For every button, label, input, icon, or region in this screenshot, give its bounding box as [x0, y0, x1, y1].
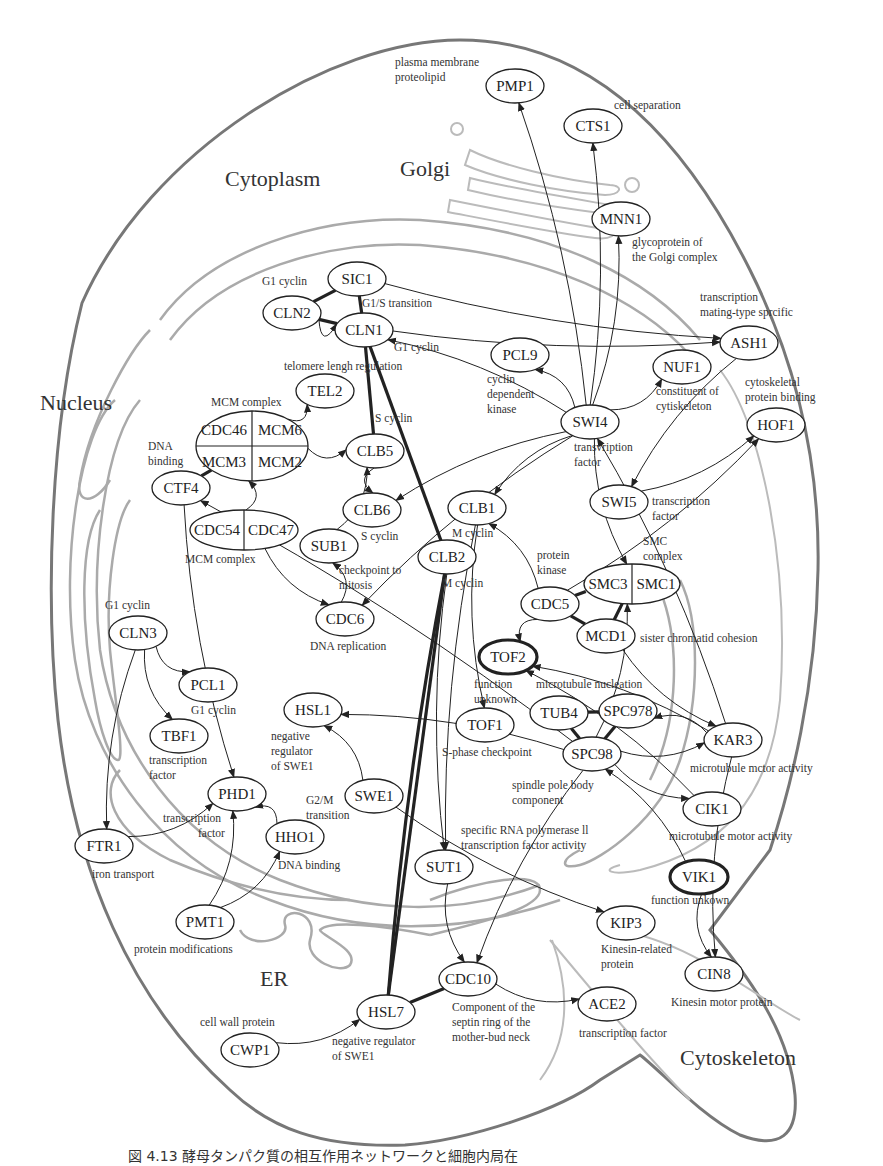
protein-node-cik1[interactable]: CIK1 [683, 792, 741, 826]
protein-node-label: TOF1 [467, 717, 503, 733]
protein-node-cts1[interactable]: CTS1 [564, 109, 622, 143]
protein-node-kip3[interactable]: KIP3 [597, 906, 655, 940]
protein-node-pmp1[interactable]: PMP1 [486, 69, 544, 103]
protein-node-label: PCL1 [190, 677, 225, 693]
protein-node-tel2[interactable]: TEL2 [296, 374, 354, 408]
function-annotation: M cyclin [442, 577, 483, 590]
protein-node-clb1[interactable]: CLB1 [448, 491, 506, 525]
function-annotation: cell separation [614, 99, 681, 112]
protein-node-clb2[interactable]: CLB2 [418, 540, 476, 574]
protein-node-clb6[interactable]: CLB6 [343, 493, 401, 527]
protein-node-label: SWI5 [602, 494, 637, 510]
function-annotation: S cyclin [361, 530, 399, 543]
function-annotation: of SWE1 [332, 1050, 375, 1062]
protein-node-label: FTR1 [86, 838, 121, 854]
protein-node-label: CDC10 [445, 971, 491, 987]
protein-node-tbf1[interactable]: TBF1 [150, 719, 208, 753]
edge-mcm_upper-to-tel2 [288, 404, 307, 420]
protein-node-label: TOF2 [490, 649, 526, 665]
protein-node-tof1[interactable]: TOF1 [456, 708, 514, 742]
protein-node-hsl7[interactable]: HSL7 [357, 995, 415, 1029]
protein-node-spc98[interactable]: SPC98 [563, 737, 621, 771]
edge-mcd1-to-smc [614, 604, 622, 620]
function-annotation: regulator [271, 745, 313, 758]
protein-node-label: SPC98 [571, 746, 613, 762]
protein-node-kar3[interactable]: KAR3 [704, 723, 762, 757]
protein-node-label: CLN2 [273, 305, 311, 321]
protein-node-label: ACE2 [588, 996, 626, 1012]
protein-node-label: CIK1 [695, 801, 728, 817]
protein-node-hho1[interactable]: HHO1 [266, 820, 324, 854]
protein-node-mnn1[interactable]: MNN1 [592, 202, 650, 236]
protein-node-label: KIP3 [610, 915, 642, 931]
protein-node-vik1[interactable]: VIK1 [670, 860, 728, 894]
function-annotation: M cyclin [452, 527, 493, 540]
edge-cdc5-to-clb1 [489, 524, 538, 589]
function-annotation: microtubule motor activity [669, 830, 793, 843]
protein-node-sub1[interactable]: SUB1 [300, 529, 358, 563]
function-annotation: transcription factor [579, 1027, 667, 1040]
protein-node-label: MCM3 [202, 454, 246, 470]
protein-node-cdc6[interactable]: CDC6 [316, 602, 374, 636]
protein-node-swi4[interactable]: SWI4 [561, 405, 619, 439]
protein-node-cin8[interactable]: CIN8 [685, 957, 743, 991]
function-annotation: function [474, 678, 513, 690]
protein-node-nuf1[interactable]: NUF1 [653, 350, 711, 384]
edge-cln3-to-pcl1 [156, 646, 190, 672]
edge-swi5-to-hof1 [641, 436, 754, 491]
protein-node-cwp1[interactable]: CWP1 [221, 1033, 279, 1067]
protein-node-ftr1[interactable]: FTR1 [75, 829, 133, 863]
protein-node-ash1[interactable]: ASH1 [720, 326, 778, 360]
complex-mcm_upper[interactable]: CDC46MCM6MCM3MCM2 [196, 411, 308, 481]
function-annotation: unknown [474, 693, 517, 705]
function-annotation: microtubule mctor activity [690, 762, 813, 775]
function-annotation: binding [148, 455, 183, 468]
protein-node-label: CLN3 [119, 625, 157, 641]
protein-node-cdc5[interactable]: CDC5 [521, 587, 579, 621]
protein-node-clb5[interactable]: CLB5 [346, 434, 404, 468]
protein-node-pcl1[interactable]: PCL1 [179, 668, 237, 702]
protein-node-pcl9[interactable]: PCL9 [491, 338, 549, 372]
region-label-golgi: Golgi [400, 156, 450, 181]
protein-node-phd1[interactable]: PHD1 [208, 777, 266, 811]
complex-mcm_lower[interactable]: CDC54CDC47 [190, 510, 298, 550]
protein-node-label: CLB1 [459, 500, 496, 516]
protein-node-label: TUB4 [540, 705, 578, 721]
protein-node-cdc10[interactable]: CDC10 [439, 962, 497, 996]
protein-node-label: KAR3 [713, 732, 752, 748]
protein-node-label: CTF4 [163, 480, 199, 496]
protein-node-sut1[interactable]: SUT1 [415, 850, 473, 884]
protein-node-pmt1[interactable]: PMT1 [176, 905, 234, 939]
function-annotation: function unkown [651, 894, 730, 906]
protein-node-label: CDC47 [248, 522, 294, 538]
function-annotation: protein [601, 958, 634, 971]
protein-node-label: SIC1 [342, 271, 373, 287]
edge-hho1-to-phd1 [255, 806, 277, 824]
protein-node-tof2[interactable]: TOF2 [479, 640, 537, 674]
protein-node-ctf4[interactable]: CTF4 [152, 471, 210, 505]
protein-node-cln1[interactable]: CLN1 [335, 313, 393, 347]
protein-node-label: CIN8 [697, 966, 730, 982]
function-annotation: protein [537, 549, 570, 562]
complex-smc[interactable]: SMC3SMC1 [584, 564, 680, 604]
region-label-cytoskeleton: Cytoskeleton [680, 1045, 796, 1070]
protein-node-swe1[interactable]: SWE1 [345, 779, 403, 813]
nodes-layer: PMP1CTS1MNN1SIC1CLN2CLN1ASH1PCL9NUF1TEL2… [75, 69, 805, 1067]
function-annotation: factor [198, 827, 225, 839]
protein-node-swi5[interactable]: SWI5 [590, 485, 648, 519]
edge-pmt1-to-phd1 [209, 811, 234, 905]
function-annotation: glycoprotein of [632, 236, 703, 249]
protein-node-cln2[interactable]: CLN2 [263, 296, 321, 330]
protein-node-label: MNN1 [600, 211, 643, 227]
protein-node-cln3[interactable]: CLN3 [109, 616, 167, 650]
protein-node-label: MCM2 [258, 454, 302, 470]
protein-node-ace2[interactable]: ACE2 [578, 987, 636, 1021]
protein-node-mcd1[interactable]: MCD1 [577, 619, 635, 653]
protein-node-spc978[interactable]: SPC978 [599, 694, 657, 728]
protein-node-sic1[interactable]: SIC1 [328, 262, 386, 296]
protein-node-label: CDC46 [201, 422, 247, 438]
protein-node-hsl1[interactable]: HSL1 [284, 693, 342, 727]
protein-node-hof1[interactable]: HOF1 [747, 408, 805, 442]
protein-node-label: TEL2 [308, 383, 343, 399]
protein-node-tub4[interactable]: TUB4 [530, 696, 588, 730]
